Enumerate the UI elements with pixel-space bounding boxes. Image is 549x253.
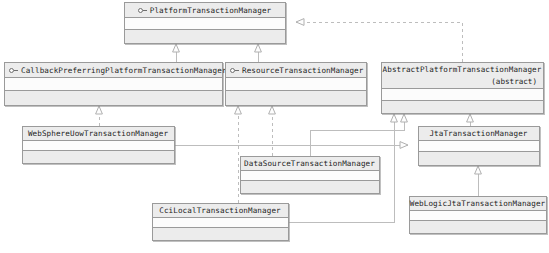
class-attributes-compartment [153,218,288,228]
class-name: WebSphereUowTransactionManager [28,128,168,139]
interface-icon [9,66,18,75]
class-node-resource-transaction-manager[interactable]: ResourceTransactionManager [225,62,367,106]
class-name: CciLocalTransactionManager [159,205,280,216]
class-node-header: ResourceTransactionManager [226,63,366,78]
class-operations-compartment [410,221,546,233]
class-node-header: WebLogicJtaTransactionManager [410,197,546,211]
class-node-callback-preferring-platform-transaction-manager[interactable]: CallbackPreferringPlatformTransactionMan… [4,62,223,106]
class-operations-compartment [23,151,174,163]
class-node-header: AbstractPlatformTransactionManager [382,63,543,76]
class-node-header: JtaTransactionManager [419,127,539,141]
class-name: CallbackPreferringPlatformTransactionMan… [21,65,227,76]
interface-icon [230,66,239,75]
class-node-header: CallbackPreferringPlatformTransactionMan… [5,63,222,78]
class-operations-compartment [382,101,543,113]
class-name: DataSourceTransactionManager [244,158,375,169]
class-name: AbstractPlatformTransactionManager [383,64,542,75]
class-node-header: DataSourceTransactionManager [241,157,379,171]
class-name: ResourceTransactionManager [242,65,363,76]
class-node-header: CciLocalTransactionManager [153,204,288,218]
abstract-stereotype-label: (abstract) [382,76,543,89]
class-attributes-compartment [125,18,285,30]
class-diagram-canvas: PlatformTransactionManager CallbackPrefe… [0,0,549,253]
class-node-jta-transaction-manager[interactable]: JtaTransactionManager [418,126,540,166]
class-node-websphere-uow-transaction-manager[interactable]: WebSphereUowTransactionManager [22,126,175,164]
class-operations-compartment [5,91,222,105]
edge-abstract-to-platform [296,22,462,62]
class-node-header: WebSphereUowTransactionManager [23,127,174,141]
class-name: PlatformTransactionManager [150,5,271,16]
class-node-cci-local-transaction-manager[interactable]: CciLocalTransactionManager [152,203,289,241]
interface-icon [138,6,147,15]
class-attributes-compartment [5,78,222,91]
class-operations-compartment [125,30,285,43]
edge-datasource-to-abstract [310,114,404,156]
class-node-datasource-transaction-manager[interactable]: DataSourceTransactionManager [240,156,380,194]
class-operations-compartment [419,152,539,165]
class-attributes-compartment [410,211,546,221]
class-attributes-compartment [419,141,539,152]
class-node-weblogic-jta-transaction-manager[interactable]: WebLogicJtaTransactionManager [409,196,547,234]
class-attributes-compartment [382,89,543,101]
class-attributes-compartment [226,78,366,91]
class-operations-compartment [226,91,366,105]
class-attributes-compartment [23,141,174,151]
class-name: WebLogicJtaTransactionManager [410,198,545,209]
class-node-abstract-platform-transaction-manager[interactable]: AbstractPlatformTransactionManager (abst… [381,62,544,114]
class-node-platform-transaction-manager[interactable]: PlatformTransactionManager [124,2,286,44]
class-node-header: PlatformTransactionManager [125,3,285,18]
class-name: JtaTransactionManager [429,128,527,139]
class-operations-compartment [241,181,379,193]
class-attributes-compartment [241,171,379,181]
class-operations-compartment [153,228,288,240]
